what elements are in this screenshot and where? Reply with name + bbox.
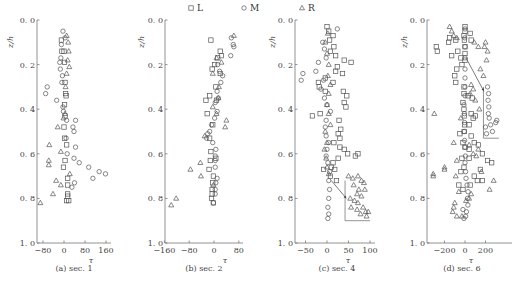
data-point [462, 107, 466, 111]
data-point [43, 91, 47, 95]
data-point [467, 147, 471, 151]
data-point [476, 44, 481, 48]
y-tick-label: 0. 0 [20, 16, 35, 25]
data-point [72, 156, 76, 160]
data-point [331, 161, 335, 165]
data-point [198, 160, 203, 164]
data-point [450, 209, 455, 213]
data-point [323, 89, 327, 93]
data-point [432, 111, 437, 115]
data-point [486, 98, 490, 102]
data-point [47, 142, 52, 146]
data-point [355, 191, 360, 195]
data-point [484, 58, 489, 62]
data-point [458, 116, 463, 120]
y-axis-label: z/h [268, 36, 277, 49]
y-tick-label: 0. 2 [410, 61, 425, 70]
data-point [463, 169, 467, 173]
data-point [463, 45, 467, 49]
y-tick-label: 1. 0 [20, 239, 35, 248]
data-point [211, 201, 215, 205]
data-point [358, 211, 363, 215]
data-point [435, 49, 439, 53]
data-point [454, 80, 458, 84]
y-tick-label: 0. 4 [20, 105, 35, 114]
data-point [325, 102, 330, 106]
data-point [224, 118, 229, 122]
data-point [91, 176, 95, 180]
arrow-icon [331, 181, 346, 199]
data-point [462, 85, 466, 89]
data-point [449, 29, 454, 33]
data-point [366, 209, 371, 213]
data-point [487, 105, 491, 109]
data-point [342, 100, 346, 104]
data-point [465, 183, 469, 187]
data-point [483, 125, 487, 129]
panel-caption: (c) sec. 4 [319, 264, 356, 273]
data-point [46, 162, 51, 166]
data-point [328, 49, 332, 53]
x-tick-label: 200 [478, 246, 493, 255]
data-point [326, 216, 330, 220]
data-point [326, 91, 331, 95]
data-point [328, 82, 333, 86]
data-point [459, 56, 463, 60]
data-point [332, 45, 336, 49]
data-point [462, 129, 466, 133]
data-point [355, 174, 360, 178]
data-point [103, 172, 107, 176]
data-point [475, 178, 479, 182]
data-point [449, 53, 453, 57]
data-point [461, 187, 465, 191]
data-point [338, 145, 342, 149]
data-point [325, 31, 330, 35]
data-point [64, 71, 69, 75]
chart-panel-3: 0. 00. 20. 40. 60. 81. 0−50050100z/hτ(c)… [268, 16, 378, 273]
data-point [58, 60, 62, 64]
data-point [65, 152, 69, 156]
data-point [434, 45, 438, 49]
data-point [463, 145, 467, 149]
data-point [325, 24, 329, 28]
data-point [325, 165, 330, 169]
data-point [72, 129, 76, 133]
data-point [457, 183, 461, 187]
data-point [210, 67, 214, 71]
data-point [324, 134, 328, 138]
y-tick-label: 0. 0 [148, 16, 163, 25]
data-point [65, 58, 70, 62]
data-point [207, 94, 211, 98]
square-marker-icon [189, 6, 193, 10]
data-point [481, 73, 486, 77]
data-point [214, 147, 218, 151]
x-tick-label: −200 [434, 246, 456, 255]
x-tick-label: −50 [297, 246, 314, 255]
y-axis-label: z/h [400, 36, 409, 49]
data-point [454, 158, 459, 162]
data-point [310, 114, 314, 118]
data-point [61, 29, 65, 33]
data-point [325, 73, 330, 77]
data-point [46, 158, 51, 162]
x-tick-label: 50 [343, 246, 353, 255]
data-point [470, 96, 474, 100]
data-point [326, 161, 330, 165]
data-point [299, 78, 303, 82]
data-point [487, 187, 492, 191]
data-point [463, 67, 467, 71]
data-point [207, 167, 211, 171]
data-point [469, 82, 474, 86]
data-point [63, 158, 67, 162]
data-point [447, 36, 451, 40]
legend-item-m: M [242, 3, 259, 13]
data-point [86, 165, 90, 169]
data-point [456, 49, 460, 53]
data-point [335, 27, 339, 31]
data-point [55, 124, 60, 128]
data-point [356, 187, 361, 191]
data-point [324, 56, 328, 60]
chart-panels: 0. 00. 20. 40. 60. 81. 0−80080160z/hτ(a)… [6, 16, 512, 273]
data-point [62, 125, 66, 129]
data-point [472, 40, 477, 44]
